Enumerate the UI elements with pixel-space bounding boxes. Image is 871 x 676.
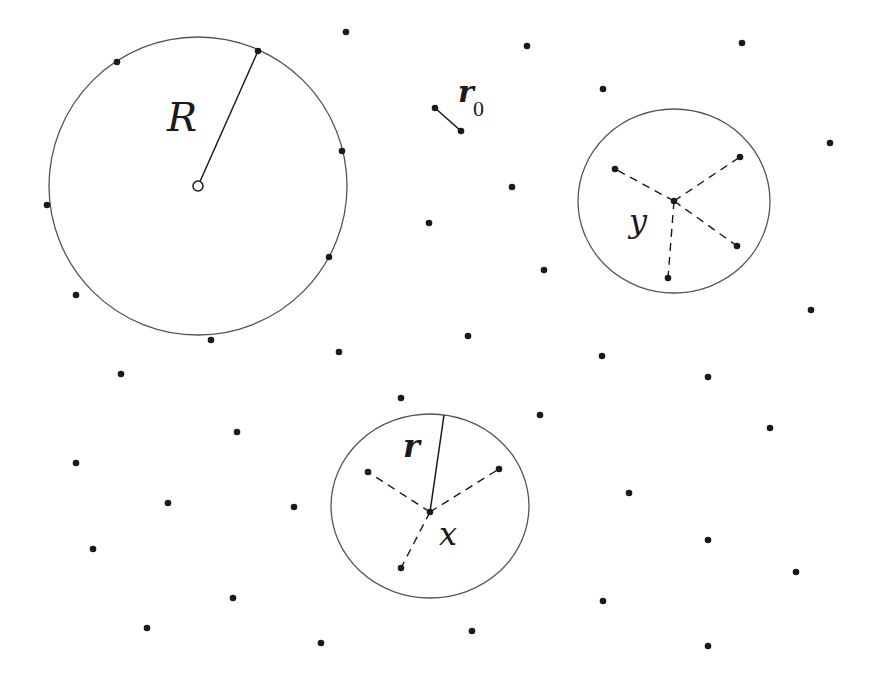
boundary-point bbox=[339, 148, 346, 155]
scattered-point bbox=[426, 220, 433, 227]
scattered-point bbox=[465, 333, 472, 340]
scattered-point bbox=[705, 374, 712, 381]
diagram-svg: R r 0 y r x bbox=[0, 0, 871, 676]
ball-y-neighbor-link bbox=[668, 201, 674, 278]
scattered-point bbox=[398, 395, 405, 402]
scattered-point bbox=[541, 267, 548, 274]
ball-y-neighbor-point bbox=[734, 243, 741, 250]
ball-x-neighbor-link bbox=[401, 512, 430, 568]
scattered-point bbox=[336, 349, 343, 356]
scattered-point bbox=[524, 43, 531, 50]
scattered-point bbox=[118, 371, 125, 378]
scattered-point bbox=[165, 500, 172, 507]
scattered-point bbox=[469, 628, 476, 635]
r0-subscript: 0 bbox=[473, 96, 484, 121]
scattered-point bbox=[90, 546, 97, 553]
scattered-point bbox=[318, 640, 325, 647]
scattered-point bbox=[291, 504, 298, 511]
r0-endpoint bbox=[432, 105, 439, 112]
point-cloud bbox=[44, 29, 834, 650]
ball-x-neighbor-link bbox=[368, 472, 430, 512]
ball-x-neighbor-link bbox=[430, 469, 499, 512]
ball-outlines bbox=[49, 37, 770, 598]
ball-x-neighbor-point bbox=[365, 469, 372, 476]
scattered-point bbox=[767, 425, 774, 432]
ball-y-neighbor-link bbox=[615, 169, 674, 201]
scattered-point bbox=[599, 353, 606, 360]
r0-endpoint bbox=[458, 128, 465, 135]
large-ball-radius-label: R bbox=[166, 94, 197, 140]
scattered-point bbox=[509, 184, 516, 191]
scattered-point bbox=[144, 625, 151, 632]
scattered-point bbox=[808, 307, 815, 314]
scattered-point bbox=[600, 86, 607, 93]
ball-y-center-point bbox=[671, 198, 678, 205]
boundary-point bbox=[255, 48, 262, 55]
ball-y-neighbor-point bbox=[737, 154, 744, 161]
scattered-point bbox=[793, 569, 800, 576]
ball-x-center-label: x bbox=[439, 515, 457, 553]
labels: R r 0 y r x bbox=[166, 74, 648, 553]
scattered-point bbox=[626, 490, 633, 497]
large-ball-center-marker bbox=[193, 181, 203, 191]
large-ball-radius-line bbox=[198, 51, 258, 186]
ball-x-circle bbox=[331, 414, 529, 598]
scattered-point bbox=[705, 537, 712, 544]
point-process-diagram: R r 0 y r x bbox=[0, 0, 871, 676]
scattered-point bbox=[705, 643, 712, 650]
scattered-point bbox=[230, 595, 237, 602]
ball-y-neighbor-link bbox=[674, 157, 740, 201]
boundary-point bbox=[44, 202, 51, 209]
ball-x-neighbor-point bbox=[496, 466, 503, 473]
scattered-point bbox=[73, 292, 80, 299]
boundary-point bbox=[326, 254, 333, 261]
scattered-point bbox=[739, 40, 746, 47]
scattered-point bbox=[234, 429, 241, 436]
ball-x-neighbor-point bbox=[398, 565, 405, 572]
ball-y-neighbor-point bbox=[665, 275, 672, 282]
r0-segment bbox=[435, 108, 461, 131]
connector-lines bbox=[198, 51, 740, 568]
ball-y-center-label: y bbox=[627, 202, 648, 240]
scattered-point bbox=[73, 460, 80, 467]
boundary-point bbox=[208, 337, 215, 344]
boundary-point bbox=[114, 59, 121, 66]
ball-x-radius-line bbox=[430, 415, 444, 512]
scattered-point bbox=[827, 140, 834, 147]
ball-y-neighbor-link bbox=[674, 201, 737, 246]
ball-x-center-point bbox=[427, 509, 434, 516]
scattered-point bbox=[343, 29, 350, 36]
ball-x-radius-label: r bbox=[403, 427, 422, 465]
scattered-point bbox=[537, 412, 544, 419]
ball-y-neighbor-point bbox=[612, 166, 619, 173]
scattered-point bbox=[600, 598, 607, 605]
